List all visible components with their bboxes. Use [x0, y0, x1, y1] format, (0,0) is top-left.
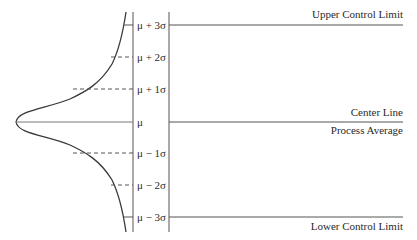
upper-control-limit-label: Upper Control Limit — [312, 8, 403, 20]
label-minus-1-sigma: μ − 1σ — [137, 147, 166, 159]
label-plus-1-sigma: μ + 1σ — [137, 83, 166, 95]
label-plus-3-sigma: μ + 3σ — [137, 19, 166, 31]
label-mean: μ — [137, 116, 143, 128]
lower-control-limit-label: Lower Control Limit — [311, 220, 403, 232]
label-plus-2-sigma: μ + 2σ — [137, 51, 166, 63]
label-minus-3-sigma: μ − 3σ — [137, 211, 166, 223]
process-average-label: Process Average — [331, 124, 403, 136]
center-line-label: Center Line — [351, 106, 403, 118]
control-chart-diagram: μ + 3σ μ + 2σ μ + 1σ μ μ − 1σ μ − 2σ μ −… — [0, 0, 417, 240]
label-minus-2-sigma: μ − 2σ — [137, 179, 166, 191]
